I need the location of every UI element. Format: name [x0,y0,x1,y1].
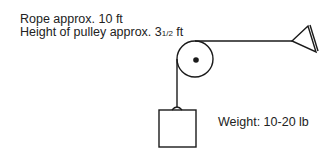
pulley-axle [193,57,199,63]
weight-block [159,110,196,147]
anchor-cone [292,26,316,52]
pulley-diagram [0,0,335,155]
